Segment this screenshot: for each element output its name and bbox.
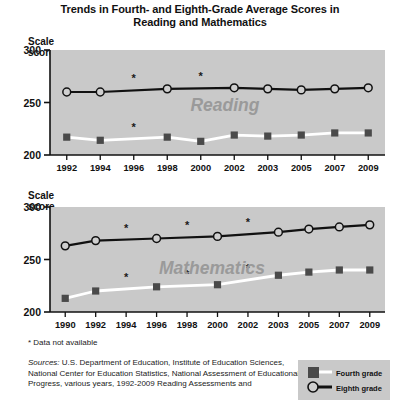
data-point-eighth-grade — [297, 86, 305, 94]
x-tick-label: 1996 — [123, 163, 144, 173]
legend-box: Fourth grade Eighth grade — [298, 360, 390, 400]
data-point-eighth-grade — [366, 221, 374, 229]
x-tick-label: 2009 — [359, 320, 380, 330]
missing-data-asterisk: * — [246, 216, 251, 228]
y-tick-label: 250 — [23, 254, 41, 266]
legend-item-eighth-grade: Eighth grade — [336, 384, 382, 393]
x-tick-label: 1992 — [85, 320, 106, 330]
x-tick-label: 2007 — [324, 163, 345, 173]
x-tick-label: 1996 — [146, 320, 167, 330]
data-point-eighth-grade — [61, 242, 69, 250]
sources-note: Sources: U.S. Department of Education, I… — [28, 358, 300, 390]
data-point-eighth-grade — [305, 225, 313, 233]
x-tick-label: 2009 — [358, 163, 379, 173]
x-tick-label: 1998 — [177, 320, 198, 330]
data-point-eighth-grade — [264, 85, 272, 93]
data-point-fourth-grade — [231, 131, 238, 138]
y-tick-label: 300 — [23, 201, 41, 213]
missing-data-asterisk: * — [199, 70, 204, 82]
data-point-fourth-grade — [366, 266, 373, 273]
x-tick-label: 1990 — [55, 320, 76, 330]
data-point-eighth-grade — [230, 84, 238, 92]
legend-marker-eighth-grade — [308, 382, 318, 392]
legend-marker-fourth-grade — [308, 367, 319, 378]
x-tick-label: 2000 — [190, 163, 211, 173]
mathematics-chart-svg: 2002503001990199219941996199820002002200… — [0, 202, 400, 337]
data-point-eighth-grade — [335, 223, 343, 231]
x-tick-label: 2007 — [329, 320, 350, 330]
x-tick-label: 2003 — [257, 163, 278, 173]
missing-data-asterisk: * — [124, 271, 129, 283]
data-point-eighth-grade — [163, 85, 171, 93]
data-point-fourth-grade — [264, 133, 271, 140]
data-point-fourth-grade — [275, 272, 282, 279]
sources-label: Sources: — [28, 358, 60, 367]
legend-swatches — [298, 360, 390, 400]
data-point-eighth-grade — [96, 88, 104, 96]
x-tick-label: 1994 — [116, 320, 138, 330]
x-tick-label: 2003 — [268, 320, 289, 330]
x-tick-label: 1994 — [90, 163, 112, 173]
data-point-eighth-grade — [92, 237, 100, 245]
data-point-fourth-grade — [62, 295, 69, 302]
x-tick-label: 2000 — [207, 320, 228, 330]
page-title-line2: Reading and Mathematics — [0, 16, 400, 29]
x-tick-label: 2002 — [238, 320, 259, 330]
x-tick-label: 2002 — [224, 163, 245, 173]
legend-item-fourth-grade: Fourth grade — [336, 369, 382, 378]
data-point-fourth-grade — [63, 134, 70, 141]
data-point-eighth-grade — [331, 85, 339, 93]
missing-data-asterisk: * — [132, 72, 137, 84]
data-point-fourth-grade — [331, 129, 338, 136]
data-point-eighth-grade — [364, 84, 372, 92]
y-tick-label: 200 — [23, 306, 41, 318]
reading-chart-svg: 2002503001992199419961998200020022003200… — [0, 45, 400, 180]
footnote-data-not-available: * Data not available — [28, 338, 97, 347]
x-tick-label: 1992 — [56, 163, 77, 173]
data-point-fourth-grade — [197, 138, 204, 145]
y-tick-label: 250 — [23, 97, 41, 109]
data-point-eighth-grade — [153, 235, 161, 243]
page-title: Trends in Fourth- and Eighth-Grade Avera… — [0, 3, 400, 29]
data-point-eighth-grade — [63, 88, 71, 96]
data-point-fourth-grade — [305, 269, 312, 276]
x-tick-label: 2005 — [299, 320, 320, 330]
data-point-fourth-grade — [365, 129, 372, 136]
data-point-fourth-grade — [164, 134, 171, 141]
chart-watermark-label: Mathematics — [159, 258, 265, 278]
data-point-eighth-grade — [275, 228, 283, 236]
y-tick-label: 300 — [23, 44, 41, 56]
data-point-fourth-grade — [336, 266, 343, 273]
data-point-fourth-grade — [214, 281, 221, 288]
data-point-fourth-grade — [92, 287, 99, 294]
data-point-fourth-grade — [153, 283, 160, 290]
x-tick-label: 2005 — [291, 163, 312, 173]
missing-data-asterisk: * — [124, 222, 129, 234]
missing-data-asterisk: * — [132, 121, 137, 133]
sources-text: U.S. Department of Education, Institute … — [28, 358, 299, 388]
data-point-eighth-grade — [214, 233, 222, 241]
data-point-fourth-grade — [97, 137, 104, 144]
data-point-fourth-grade — [298, 131, 305, 138]
chart-watermark-label: Reading — [190, 95, 259, 115]
x-tick-label: 1998 — [157, 163, 178, 173]
missing-data-asterisk: * — [185, 219, 190, 231]
y-tick-label: 200 — [23, 149, 41, 161]
page-title-line1: Trends in Fourth- and Eighth-Grade Avera… — [61, 3, 340, 15]
